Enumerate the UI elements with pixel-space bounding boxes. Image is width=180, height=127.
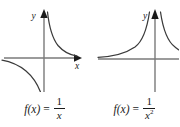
equation-reciprocal: f(x) = 1 x <box>24 96 64 121</box>
x-axis-label: x <box>74 61 80 71</box>
caption-reciprocal-squared: f(x) = 1 x2 <box>90 93 179 127</box>
function-name: f(x) <box>114 103 130 115</box>
fraction-denominator: x2 <box>143 109 155 121</box>
denominator-exponent: 2 <box>150 108 154 116</box>
y-axis-arrowhead-icon <box>151 9 158 19</box>
curve-branch-left <box>98 12 150 57</box>
curve-branch-right <box>161 12 180 50</box>
figure-two-reciprocal-graphs: y x f(x) = 1 x <box>0 0 179 127</box>
y-axis-label: y <box>142 11 148 21</box>
panel-reciprocal-squared: y f(x) = 1 x2 <box>90 0 179 127</box>
panel-reciprocal: y x f(x) = 1 x <box>0 0 89 127</box>
equals-sign: = <box>133 103 140 115</box>
fraction-numerator: 1 <box>54 96 64 108</box>
plot-reciprocal-squared: y <box>90 0 179 92</box>
graph-reciprocal-svg: y x <box>0 0 89 92</box>
fraction: 1 x <box>54 96 65 121</box>
y-axis-arrowhead-icon <box>40 9 47 18</box>
fraction-numerator: 1 <box>144 96 154 108</box>
plot-reciprocal: y x <box>0 0 89 92</box>
graph-reciprocal-squared-svg: y <box>90 0 179 92</box>
equals-sign: = <box>43 103 50 115</box>
fraction: 1 x2 <box>143 96 155 121</box>
curve-branch-quadrant-1 <box>48 12 78 56</box>
caption-reciprocal: f(x) = 1 x <box>0 93 89 127</box>
curve-branch-quadrant-3 <box>2 60 41 92</box>
fraction-denominator: x <box>55 109 64 121</box>
y-axis-label: y <box>31 11 37 21</box>
equation-reciprocal-squared: f(x) = 1 x2 <box>114 96 156 121</box>
function-name: f(x) <box>24 103 40 115</box>
